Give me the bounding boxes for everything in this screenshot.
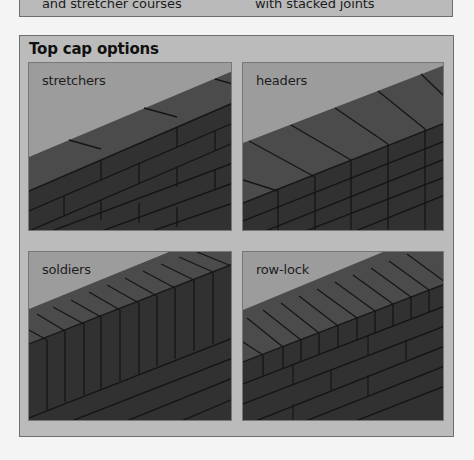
panel-row-lock: row-lock	[242, 251, 444, 421]
caption-right-text: with stacked joints	[255, 0, 375, 11]
panel-label: soldiers	[42, 262, 91, 277]
panel-stretchers: stretchers	[28, 62, 232, 231]
panel-label: headers	[256, 73, 307, 88]
row-lock-cap-illustration	[243, 252, 444, 421]
figure-title: Top cap options	[29, 40, 159, 58]
caption-box: and stretcher courses with stacked joint…	[19, 0, 453, 17]
stretchers-cap-illustration	[29, 63, 232, 231]
caption-left-text: and stretcher courses	[42, 0, 182, 11]
panel-soldiers: soldiers	[28, 251, 232, 421]
soldiers-cap-illustration	[29, 252, 232, 421]
panel-label: stretchers	[42, 73, 106, 88]
top-cap-options-figure: Top cap options	[19, 35, 454, 437]
panel-headers: headers	[242, 62, 444, 231]
headers-cap-illustration	[243, 63, 444, 231]
panel-label: row-lock	[256, 262, 309, 277]
